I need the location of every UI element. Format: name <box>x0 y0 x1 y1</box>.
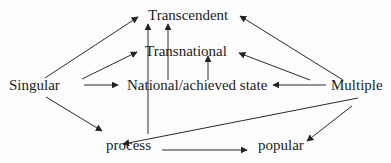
node-transnational: Transnational <box>145 44 227 59</box>
edge-singular-transcendent <box>45 17 138 78</box>
node-national-achieved-state: National/achieved state <box>127 78 267 93</box>
edge-singular-transnational <box>82 52 137 79</box>
edge-multiple-transnational <box>239 53 310 80</box>
node-singular: Singular <box>9 78 60 93</box>
edge-multiple-popular <box>307 106 352 141</box>
node-process: process <box>106 138 151 153</box>
node-popular: popular <box>258 138 304 153</box>
edge-multiple-transcendent <box>240 16 343 80</box>
node-multiple: Multiple <box>331 78 383 93</box>
edge-singular-process <box>46 97 102 131</box>
node-transcendent: Transcendent <box>148 8 228 23</box>
edge-multiple-process <box>123 98 358 144</box>
diagram-canvas: Transcendent Transnational Singular Nati… <box>0 0 391 163</box>
